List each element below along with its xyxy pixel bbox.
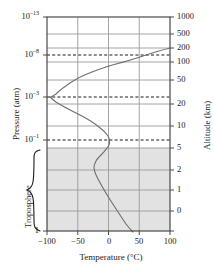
bottom-axis-ticks xyxy=(47,231,170,235)
y2-axis-title: Altitude (km) xyxy=(203,101,212,150)
altitude-tick-500: 500 xyxy=(177,29,190,38)
pressure-tick-1e-1-exp: –1 xyxy=(33,133,39,139)
pressure-tick-1: 1 xyxy=(5,226,39,235)
temperature-tick-100: 100 xyxy=(150,237,190,246)
x-axis-title: Temperature (°C) xyxy=(56,253,166,262)
altitude-tick-20: 20 xyxy=(177,99,186,108)
pressure-tick-1e-13-exp: –13 xyxy=(30,10,39,16)
pressure-tick-1e-8-exp: –8 xyxy=(33,48,39,54)
altitude-tick-2: 2 xyxy=(177,165,181,174)
pressure-tick-1e-3-exp: –3 xyxy=(33,90,39,96)
right-axis-ticks xyxy=(170,17,174,231)
altitude-tick-1000: 1000 xyxy=(177,12,194,21)
troposphere-label: Troposphere xyxy=(24,185,33,228)
pressure-tick-1e-8: 10–8 xyxy=(5,50,39,59)
altitude-tick-200: 200 xyxy=(177,43,190,52)
altitude-tick-100: 100 xyxy=(177,57,190,66)
altitude-tick-1: 1 xyxy=(177,185,181,194)
altitude-tick-50: 50 xyxy=(177,75,186,84)
y-axis-title: Pressure (atm) xyxy=(12,88,21,140)
pressure-tick-1e-13: 10–13 xyxy=(5,12,39,21)
altitude-tick-10: 10 xyxy=(177,121,186,130)
altitude-tick-5: 5 xyxy=(177,143,181,152)
altitude-tick-0: 0 xyxy=(177,206,181,215)
